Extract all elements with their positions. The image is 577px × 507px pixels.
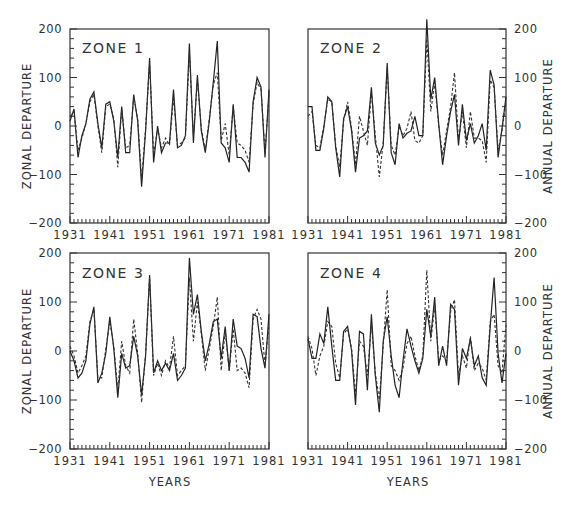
y-axis-label-right-zone-2: ANNUAL DEPARTURE — [541, 58, 555, 193]
y-tick-label: 100 — [39, 295, 62, 309]
x-tick-label: 1961 — [173, 454, 206, 468]
y-tick-label: 200 — [39, 246, 62, 260]
x-axis-label-zone-3: YEARS — [148, 475, 191, 489]
x-tick-label: 1941 — [331, 228, 364, 242]
x-axis-label-zone-4: YEARS — [386, 475, 429, 489]
x-tick-label: 1981 — [252, 454, 285, 468]
x-tick-label: 1961 — [410, 454, 443, 468]
plot-frame — [308, 29, 506, 223]
x-tick-label: 1951 — [133, 454, 166, 468]
panel-title-zone-4: ZONE 4 — [320, 265, 382, 281]
chart-canvas: 1931194119511961197119812001000−100−200 … — [0, 0, 577, 507]
panel-title-zone-3: ZONE 3 — [82, 265, 144, 281]
x-tick-label: 1951 — [371, 228, 404, 242]
y-tick-label: 100 — [514, 71, 537, 85]
panel-zone-3: 1931194119511961197119812001000−100−200 — [28, 246, 285, 468]
y-tick-label: 200 — [39, 22, 62, 36]
x-tick-label: 1941 — [93, 454, 126, 468]
y-tick-label: −200 — [514, 216, 548, 230]
zonal-departure-line — [70, 41, 269, 187]
plot-frame — [70, 29, 269, 223]
x-tick-label: 1971 — [450, 228, 483, 242]
plot-frame — [308, 253, 506, 449]
x-tick-label: 1981 — [489, 228, 522, 242]
panel-zone-1: 1931194119511961197119812001000−100−200 — [28, 22, 285, 242]
panel-title-zone-1: ZONE 1 — [82, 40, 144, 56]
plot-frame — [70, 253, 269, 449]
x-tick-label: 1941 — [331, 454, 364, 468]
x-tick-label: 1931 — [53, 454, 86, 468]
y-tick-label: 0 — [54, 119, 62, 133]
x-tick-label: 1931 — [53, 228, 86, 242]
chart-figure: 1931194119511961197119812001000−100−200 … — [0, 0, 577, 507]
x-tick-label: 1971 — [213, 454, 246, 468]
y-tick-label: 0 — [514, 344, 522, 358]
x-tick-label: 1971 — [213, 228, 246, 242]
annual-departure-line — [308, 39, 506, 177]
y-tick-label: −200 — [514, 442, 548, 456]
y-tick-label: −200 — [28, 216, 62, 230]
y-tick-label: 100 — [514, 295, 537, 309]
x-tick-label: 1931 — [291, 228, 324, 242]
y-tick-label: 200 — [514, 246, 537, 260]
y-axis-label-zone-1: ZONAL DEPARTURE — [20, 63, 34, 190]
x-tick-label: 1971 — [450, 454, 483, 468]
x-tick-label: 1951 — [133, 228, 166, 242]
y-tick-label: 200 — [514, 22, 537, 36]
x-tick-label: 1981 — [489, 454, 522, 468]
y-tick-label: 0 — [54, 344, 62, 358]
annual-departure-line — [70, 278, 269, 403]
x-tick-label: 1961 — [410, 228, 443, 242]
x-tick-label: 1981 — [252, 228, 285, 242]
y-tick-label: 0 — [514, 119, 522, 133]
panel-title-zone-2: ZONE 2 — [320, 40, 382, 56]
x-tick-label: 1961 — [173, 228, 206, 242]
y-axis-label-right-zone-4: ANNUAL DEPARTURE — [541, 283, 555, 418]
x-tick-label: 1951 — [371, 454, 404, 468]
annual-departure-line — [70, 53, 269, 179]
zonal-departure-line — [308, 278, 506, 413]
y-axis-label-zone-3: ZONAL DEPARTURE — [20, 288, 34, 415]
y-tick-label: −200 — [28, 442, 62, 456]
x-tick-label: 1941 — [93, 228, 126, 242]
x-tick-label: 1931 — [291, 454, 324, 468]
y-tick-label: 100 — [39, 71, 62, 85]
